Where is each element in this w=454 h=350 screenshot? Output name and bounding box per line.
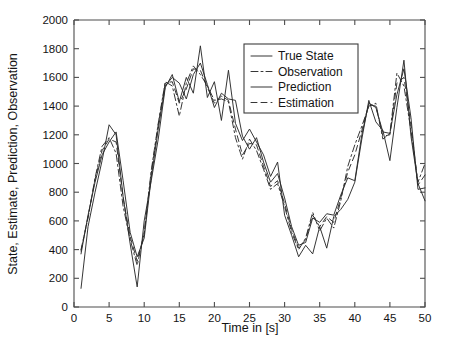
y-axis-title: State, Estimate, Prediction, Observation (6, 53, 20, 275)
line-chart: 0200400600800100012001400160018002000 05… (0, 0, 454, 350)
y-tick-label: 200 (49, 272, 68, 284)
legend-label-estimation: Estimation (278, 96, 334, 110)
x-tick-label: 30 (278, 312, 291, 324)
x-tick-label: 10 (138, 312, 151, 324)
x-tick-label: 5 (106, 312, 112, 324)
x-tick-label: 0 (71, 312, 77, 324)
chart-legend: True StateObservationPredictionEstimatio… (244, 44, 358, 113)
y-tick-label: 2000 (42, 14, 68, 26)
y-tick-label: 0 (62, 301, 68, 313)
legend-label-observation: Observation (278, 65, 343, 79)
y-tick-label: 1800 (42, 43, 68, 55)
y-axis-tick-labels: 0200400600800100012001400160018002000 (42, 14, 68, 313)
chart-figure: 0200400600800100012001400160018002000 05… (0, 0, 454, 350)
y-tick-label: 1200 (42, 129, 68, 141)
x-axis-title: Time in [s] (221, 321, 278, 335)
x-tick-label: 45 (384, 312, 397, 324)
legend-label-prediction: Prediction (278, 80, 331, 94)
y-tick-label: 400 (49, 244, 68, 256)
x-tick-label: 50 (419, 312, 432, 324)
x-tick-label: 40 (348, 312, 361, 324)
x-tick-label: 20 (208, 312, 221, 324)
x-tick-label: 15 (173, 312, 186, 324)
y-tick-label: 1000 (42, 158, 68, 170)
legend-label-true-state: True State (278, 49, 334, 63)
x-tick-label: 35 (313, 312, 326, 324)
y-tick-label: 1400 (42, 100, 68, 112)
y-tick-label: 800 (49, 186, 68, 198)
y-tick-label: 1600 (42, 71, 68, 83)
y-tick-label: 600 (49, 215, 68, 227)
